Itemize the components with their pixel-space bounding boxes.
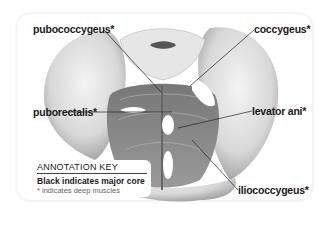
label-puborectalis: puborectalis* — [33, 106, 97, 118]
annotation-key-major: Black indicates major core — [37, 177, 147, 186]
label-pubococcygeus: pubococcygeus* — [33, 23, 114, 35]
annotation-key-deep: * indicates deep muscles — [37, 186, 147, 195]
annotation-key-title: ANNOTATION KEY — [37, 162, 147, 174]
label-iliococcygeus: iliococcygeus* — [238, 184, 309, 196]
label-coccygeus: coccygeus* — [254, 23, 310, 35]
label-levator-ani: levator ani* — [252, 105, 306, 117]
annotation-key: ANNOTATION KEY Black indicates major cor… — [33, 160, 151, 197]
